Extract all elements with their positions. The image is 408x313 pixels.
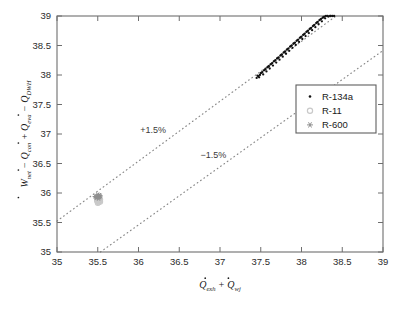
- x-title-plus: +: [218, 279, 225, 290]
- data-point: [319, 18, 321, 20]
- figure-container: 3535.53636.53737.53838.539 3535.53636.53…: [0, 0, 408, 313]
- y-axis-title: Wnet − Qcon + Qeva − QDWH: [18, 79, 32, 198]
- y-tick-label: 38: [40, 69, 51, 80]
- data-point: [283, 51, 285, 53]
- x-axis-tick-labels: 3535.53636.53737.53838.539: [52, 256, 389, 267]
- data-point: [308, 32, 310, 34]
- data-point: [295, 44, 297, 46]
- legend-label-r-600: R-600: [322, 119, 348, 130]
- data-point: [313, 24, 315, 26]
- data-point: [270, 63, 272, 65]
- legend-label-r-11: R-11: [322, 105, 342, 116]
- data-point: [309, 27, 311, 29]
- data-point: [269, 67, 271, 69]
- data-point: [311, 29, 313, 31]
- data-point: [288, 50, 290, 52]
- y-title-q3-sub: DWH: [25, 79, 32, 96]
- y-title-overdot-4: [18, 114, 20, 116]
- data-point: [298, 41, 300, 43]
- y-tick-label: 37.5: [33, 99, 52, 110]
- data-point: [300, 36, 302, 38]
- legend-marker-r-134a: [309, 95, 312, 98]
- data-point: [282, 56, 284, 58]
- y-title-minus1: −: [19, 162, 30, 169]
- data-point: [277, 57, 279, 59]
- x-tick-label: 35.5: [89, 256, 108, 267]
- data-point: [275, 61, 277, 63]
- data-point: [290, 45, 292, 47]
- x-tick-label: 37.5: [252, 256, 271, 267]
- y-tick-label: 35: [40, 246, 51, 257]
- y-tick-label: 36.5: [33, 158, 52, 169]
- x-title-qdot-2: [228, 277, 230, 279]
- y-title-overdot-3: [18, 142, 20, 144]
- data-point: [296, 39, 298, 41]
- legend[interactable]: R-134aR-11R-600: [296, 85, 376, 133]
- x-title-q2-sub: wj: [235, 285, 241, 292]
- data-point: [258, 76, 260, 78]
- x-title-qdot-1: [204, 277, 206, 279]
- data-point: [291, 47, 293, 49]
- y-title-overdot-1: [18, 197, 20, 199]
- x-tick-label: 35: [52, 256, 63, 267]
- y-title-w-sub: net: [25, 171, 32, 179]
- data-point: [321, 20, 323, 22]
- data-point: [278, 59, 280, 61]
- x-tick-label: 38: [296, 256, 307, 267]
- x-tick-label: 38.5: [333, 256, 352, 267]
- data-point: [256, 74, 258, 76]
- data-point: [301, 38, 303, 40]
- y-title-overdot-2: [18, 169, 20, 171]
- data-point: [330, 15, 332, 17]
- y-title-minus2: −: [19, 105, 30, 112]
- data-point: [264, 69, 266, 71]
- annotation-plus-1-5-percent: +1.5%: [140, 125, 166, 135]
- data-point: [285, 53, 287, 55]
- data-point: [256, 77, 258, 79]
- data-point: [273, 60, 275, 62]
- y-title-plus: +: [19, 133, 30, 140]
- data-point: [293, 42, 295, 44]
- data-point: [267, 66, 269, 68]
- data-point: [316, 21, 318, 23]
- data-point: [272, 64, 274, 66]
- data-point: [260, 71, 262, 73]
- y-tick-label: 36: [40, 187, 51, 198]
- parity-plot: 3535.53636.53737.53838.539 3535.53636.53…: [0, 0, 408, 313]
- y-tick-label: 38.5: [33, 40, 52, 51]
- data-point: [304, 35, 306, 37]
- data-point: [306, 30, 308, 32]
- y-tick-label: 37: [40, 128, 51, 139]
- data-point: [262, 73, 264, 75]
- x-tick-label: 36.5: [170, 256, 189, 267]
- data-point: [324, 17, 326, 19]
- x-tick-label: 37: [215, 256, 226, 267]
- x-tick-label: 36: [133, 256, 144, 267]
- y-tick-label: 39: [40, 10, 51, 21]
- data-point: [317, 23, 319, 25]
- legend-label-r-134a: R-134a: [322, 91, 354, 102]
- data-point: [314, 26, 316, 28]
- data-point: [303, 33, 305, 35]
- y-tick-label: 35.5: [33, 217, 52, 228]
- annotation-minus-1-5-percent: −1.5%: [201, 150, 227, 160]
- x-tick-label: 39: [378, 256, 389, 267]
- data-point: [286, 48, 288, 50]
- data-point: [280, 54, 282, 56]
- data-point: [265, 70, 267, 72]
- data-point: [333, 15, 335, 17]
- data-point: [327, 15, 329, 17]
